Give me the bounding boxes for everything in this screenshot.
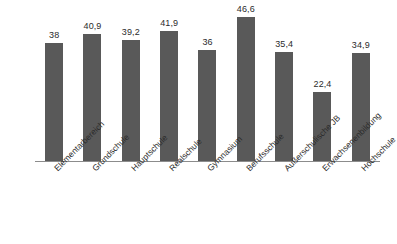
bar-value-label: 38 [49,30,59,40]
x-axis-category-labels: ElementarbereichGrundschuleHauptschuleRe… [35,163,380,243]
x-axis-tick-label-slot: Außerschulische JB [265,163,303,243]
bar-value-label: 34,9 [352,40,370,50]
x-axis-tick-label-slot: Hochschule [342,163,380,243]
x-axis-tick-label-slot: Realschule [150,163,188,243]
bar-value-label: 40,9 [84,21,102,31]
x-axis-tick-label-slot: Gymnasium [188,163,226,243]
x-axis-tick-label-slot: Elementarbereich [35,163,73,243]
bar-value-label: 22,4 [314,79,332,89]
bar-value-label: 41,9 [160,18,178,28]
bar-group: 38 [35,6,73,162]
bar-value-label: 39,2 [122,27,140,37]
bar-column: 38 [35,6,73,162]
x-axis-tick-label-slot: Berufsschule [227,163,265,243]
bar-value-label: 46,6 [237,4,255,14]
bar-value-label: 35,4 [275,39,293,49]
x-axis-tick-label-slot: Erwachsenenbildung [303,163,341,243]
bar-value-label: 36 [202,37,212,47]
bar[interactable] [45,43,63,162]
x-axis-tick-label-slot: Hauptschule [112,163,150,243]
x-axis-tick-label-slot: Grundschule [73,163,111,243]
